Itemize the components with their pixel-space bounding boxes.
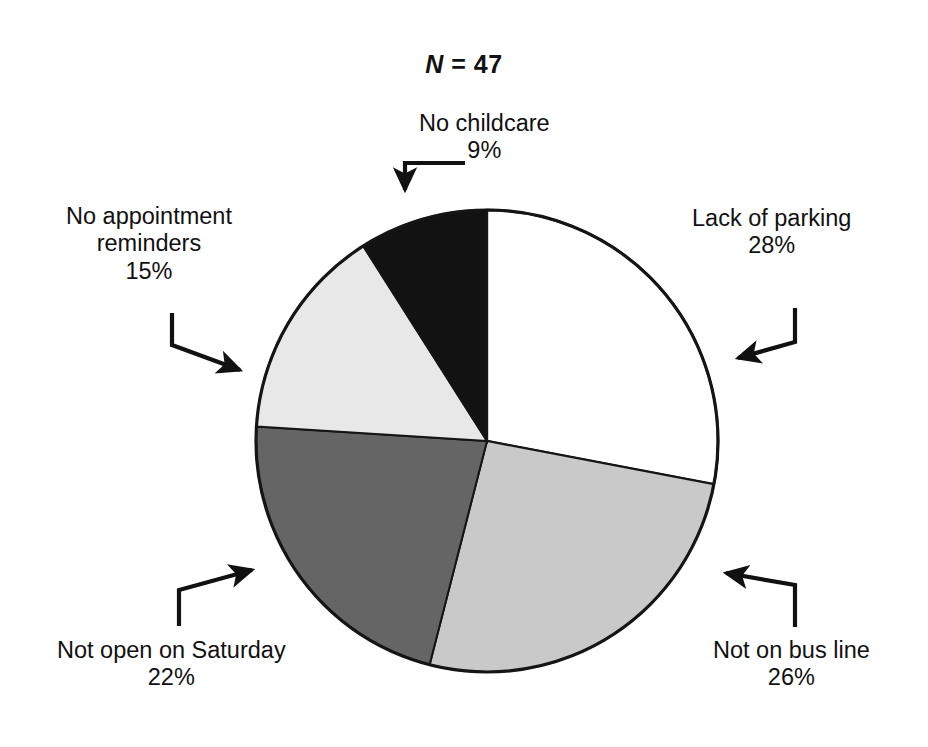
leader-arrow-no-childcare: [405, 163, 465, 190]
leader-arrow-lack-of-parking: [738, 308, 795, 358]
callout-no-childcare: No childcare 9%: [419, 110, 550, 165]
callout-no-appointment-reminders-label-line1: No appointment: [66, 203, 232, 229]
leader-arrow-not-on-bus-line: [726, 573, 795, 627]
callout-no-appointment-reminders-label-line2: reminders: [66, 230, 232, 257]
callout-lack-of-parking-percent: 28%: [692, 232, 851, 259]
callout-no-appointment-reminders-percent: 15%: [66, 258, 232, 285]
callout-not-open-on-saturday: Not open on Saturday 22%: [57, 637, 286, 692]
callout-lack-of-parking: Lack of parking 28%: [692, 205, 851, 260]
pie-chart-figure: N = 47: [0, 0, 928, 747]
callout-not-on-bus-line-label: Not on bus line: [713, 637, 870, 663]
callout-no-appointment-reminders: No appointment reminders 15%: [66, 203, 232, 285]
pie-slices: [256, 210, 718, 672]
callout-not-on-bus-line: Not on bus line 26%: [713, 637, 870, 692]
callout-not-on-bus-line-percent: 26%: [713, 664, 870, 691]
pie-slice-lack-of-parking: [487, 210, 718, 484]
leader-arrow-not-open-on-saturday: [179, 570, 252, 626]
callout-not-open-on-saturday-percent: 22%: [57, 664, 286, 691]
callout-no-childcare-percent: 9%: [419, 137, 550, 164]
leader-arrow-no-appointment-reminders: [172, 313, 240, 370]
callout-lack-of-parking-label: Lack of parking: [692, 205, 851, 231]
callout-not-open-on-saturday-label: Not open on Saturday: [57, 637, 286, 663]
callout-no-childcare-label: No childcare: [419, 110, 550, 136]
